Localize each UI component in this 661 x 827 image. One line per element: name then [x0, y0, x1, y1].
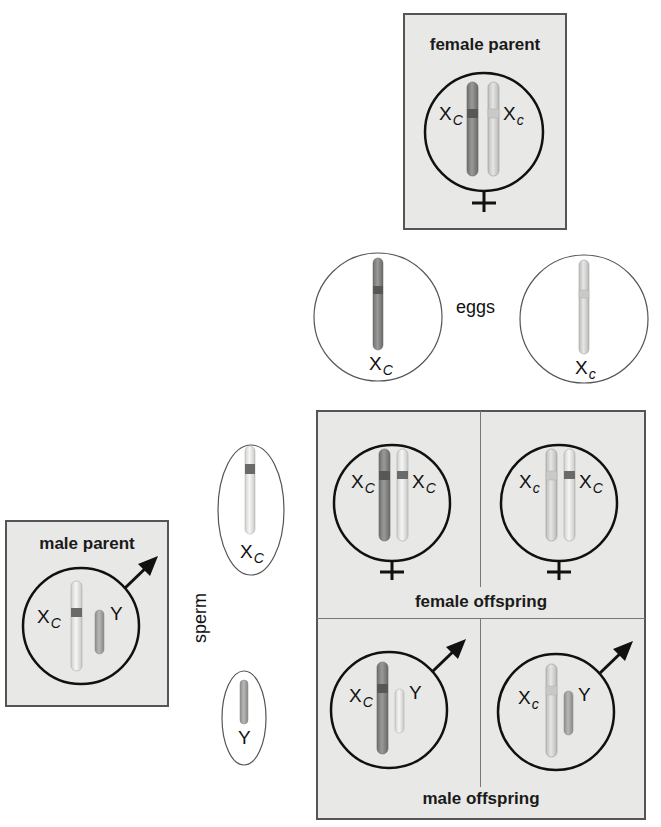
male-offspring-2-label-y: Y: [578, 685, 591, 704]
male-offspring-1-label-x: XC: [349, 686, 373, 709]
male-offspring-2-label-x: Xc: [518, 688, 539, 711]
female-offspring-2-label-left: Xc: [519, 472, 540, 495]
male-offspring-label: male offspring: [316, 789, 646, 809]
female-symbol-icon: [501, 445, 617, 561]
female-offspring-1-label-left: XC: [351, 472, 375, 495]
offspring-graphic: [0, 0, 661, 827]
male-symbol-icon: [331, 652, 447, 768]
female-offspring-2-label-right: XC: [579, 472, 603, 495]
female-symbol-icon: [334, 445, 450, 561]
female-offspring-2: [501, 445, 617, 580]
female-offspring-label: female offspring: [316, 592, 646, 612]
female-offspring-1: [334, 445, 450, 580]
male-offspring-1-label-y: Y: [409, 683, 422, 702]
female-offspring-1-label-right: XC: [412, 472, 436, 495]
